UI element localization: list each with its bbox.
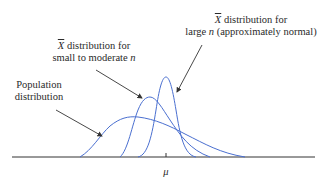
mean-label: μ: [158, 166, 174, 178]
label-text: (approximately normal): [214, 26, 317, 37]
label-text: distribution for: [64, 40, 130, 51]
label-text: distribution for: [221, 14, 287, 25]
n-variable: n: [130, 52, 135, 63]
label-text: small to moderate: [52, 52, 130, 63]
moderate-n-curve: [120, 97, 210, 157]
label-text: Population: [4, 79, 74, 91]
large-n-arrow: [177, 45, 202, 92]
large-n-label: X distribution for large n (approximatel…: [176, 14, 326, 38]
label-text: distribution: [4, 91, 74, 103]
label-text: large: [185, 26, 208, 37]
moderate-n-label: X distribution for small to moderate n: [34, 40, 154, 64]
population-label: Population distribution: [4, 79, 74, 103]
moderate-n-arrow: [96, 70, 142, 98]
population-curve: [80, 117, 245, 157]
population-arrow: [56, 110, 102, 136]
large-n-curve: [138, 77, 196, 157]
